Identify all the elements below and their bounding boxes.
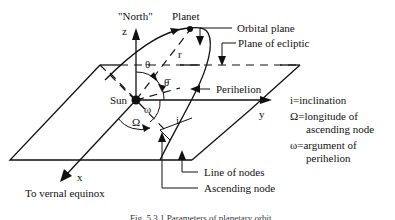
r-label: r <box>178 48 182 60</box>
vernal-equinox-label: To vernal equinox <box>25 187 105 199</box>
line-of-nodes-label: Line of nodes <box>204 166 264 178</box>
axes <box>60 28 272 182</box>
orbit-diagram: "North" z Planet r θ θ̄ Sun ω Ω i y x To… <box>0 0 395 220</box>
legend-inclination: i=inclination <box>290 94 347 106</box>
legend-argument-line1: ω=argument of <box>290 139 357 151</box>
x-axis-label: x <box>77 171 83 183</box>
planet-label: Planet <box>172 10 200 22</box>
legend-longitude-line1: Ω=longitude of <box>290 110 358 122</box>
theta-bar-label: θ̄ <box>164 76 171 88</box>
orbital-plane-label: Orbital plane <box>237 22 295 34</box>
angle-arcs <box>118 72 192 140</box>
ascending-node-label: Ascending node <box>204 182 275 194</box>
sun-label: Sun <box>110 94 128 106</box>
theta-label: θ <box>145 58 150 70</box>
leaders <box>158 28 236 188</box>
legend-argument-line2: perihelion <box>306 152 351 164</box>
north-label: "North" <box>118 10 153 22</box>
x-axis-line <box>66 100 136 175</box>
y-arrow-icon <box>260 96 272 104</box>
omega-big-label: Ω <box>132 116 140 128</box>
figure-caption: Fig. 5.3.1 Parameters of planetary orbit <box>130 213 272 220</box>
perihelion-label: Perihelion <box>216 83 262 95</box>
legend-longitude-line2: ascending node <box>306 123 374 135</box>
orbit-direction-arrow-icon <box>170 28 180 35</box>
inclination-label: i <box>176 114 179 126</box>
legend: i=inclination Ω=longitude of ascending n… <box>290 94 374 164</box>
z-axis-label: z <box>122 25 127 37</box>
y-axis-label: y <box>259 108 265 120</box>
plane-of-ecliptic-label: Plane of ecliptic <box>238 37 310 49</box>
planet-dot <box>187 26 193 32</box>
omega-small-label: ω <box>144 103 151 115</box>
sun-dot <box>132 96 141 105</box>
z-arrow-icon <box>132 28 140 40</box>
